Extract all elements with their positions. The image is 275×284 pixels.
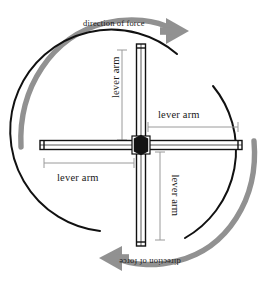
wheel-rim-arc-left	[10, 30, 177, 231]
dimension-lever-left	[44, 158, 134, 168]
diagram-canvas	[0, 0, 275, 284]
hub-nut	[135, 136, 148, 155]
force-arrow-top	[21, 18, 189, 147]
label-direction-of-force-bottom: direction of force	[119, 257, 181, 266]
label-lever-arm-bottom: lever arm	[170, 174, 181, 216]
force-arrow-top-shaft-cap	[160, 27, 172, 35]
lever-arm-diagram: direction of force direction of force le…	[0, 0, 275, 284]
label-lever-arm-top: lever arm	[111, 56, 122, 98]
force-arrow-top-arc	[21, 20, 172, 147]
label-lever-arm-left: lever arm	[57, 173, 99, 184]
hub-pivot-icon	[132, 136, 150, 155]
label-lever-arm-right: lever arm	[158, 110, 200, 121]
dimension-lever-bottom	[155, 152, 165, 240]
label-direction-of-force-top: direction of force	[83, 19, 145, 28]
dimension-lever-right	[148, 122, 238, 132]
